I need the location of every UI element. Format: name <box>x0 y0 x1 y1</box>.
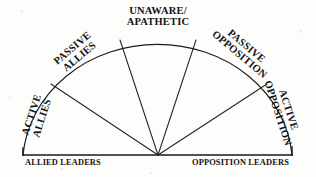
axis-label-allied-leaders: ALLIED LEADERS <box>25 158 101 168</box>
sector-divider-4 <box>158 84 267 155</box>
sector-divider-2 <box>120 40 158 155</box>
diagram-canvas: ACTIVE ALLIES PASSIVE ALLIES UNAWARE/ AP… <box>0 0 316 177</box>
axis-label-opposition-leaders: OPPOSITION LEADERS <box>192 158 289 168</box>
sector-divider-3 <box>158 40 196 155</box>
sector-label-line2: APATHETIC <box>110 17 206 28</box>
sector-label-unaware-apathetic: UNAWARE/ APATHETIC <box>110 6 206 27</box>
sector-label-line1: UNAWARE/ <box>110 6 206 17</box>
sector-divider-1 <box>51 84 158 155</box>
